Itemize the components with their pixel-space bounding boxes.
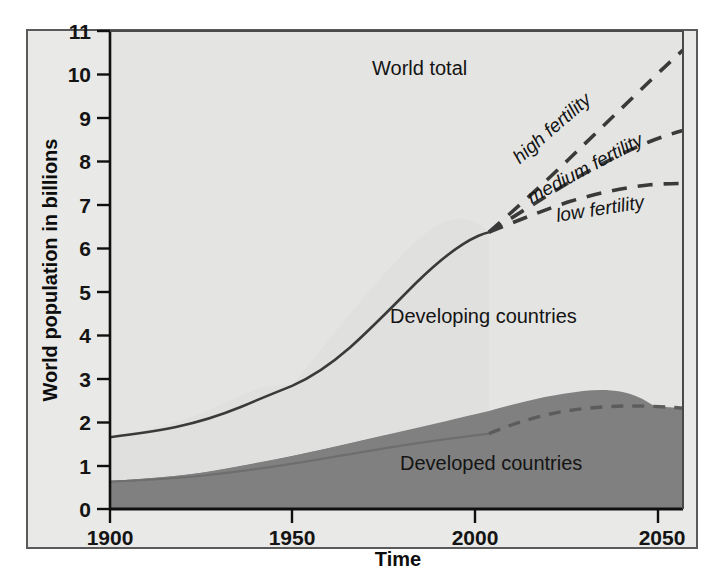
y-tick-label: 10 [68,63,91,86]
x-tick-label: 1900 [87,526,134,549]
x-tick-label: 2000 [452,526,499,549]
y-tick-label: 11 [69,20,92,43]
y-tick-label: 8 [79,150,91,173]
y-tick-label: 9 [79,107,91,130]
developing-countries-label: Developing countries [390,305,577,327]
x-axis-title: Time [375,548,421,570]
x-tick-label: 1950 [269,526,316,549]
chart-svg: 11 10 9 8 7 6 5 4 3 2 1 0 1900 1950 2000… [0,0,709,576]
y-tick-label: 4 [79,324,91,347]
world-total-label: World total [372,57,467,79]
developed-countries-label: Developed countries [400,452,582,474]
population-projection-figure: 11 10 9 8 7 6 5 4 3 2 1 0 1900 1950 2000… [0,0,709,576]
y-tick-label: 7 [79,194,91,217]
y-tick-label: 0 [79,498,91,521]
y-tick-label: 5 [79,281,91,304]
y-tick-label: 6 [79,237,91,260]
x-tick-label: 2050 [639,526,686,549]
y-tick-label: 2 [79,411,91,434]
y-axis-title: World population in billions [39,139,61,402]
y-tick-label: 3 [79,368,91,391]
y-tick-label: 1 [79,455,91,478]
